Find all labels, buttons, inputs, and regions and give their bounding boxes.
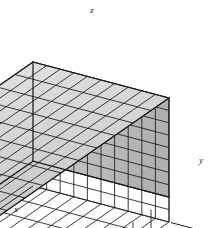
scene-group bbox=[0, 62, 213, 228]
voxel-cube-diagram: x y z bbox=[0, 0, 213, 228]
figure-container: x y z bbox=[0, 0, 213, 228]
axis-label-y: y bbox=[198, 155, 203, 165]
axis-label-z: z bbox=[89, 5, 94, 15]
axis-label-x: x bbox=[13, 204, 18, 214]
axis-line-y bbox=[171, 223, 213, 228]
